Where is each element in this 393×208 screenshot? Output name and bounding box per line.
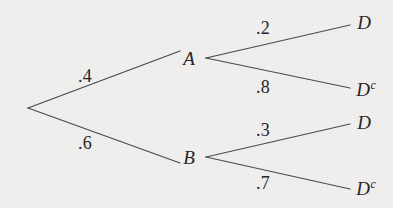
edge-probability-a-dc: .8 [256, 78, 270, 96]
leaf-superscript-c: c [371, 177, 376, 190]
leaf-label-b-d: D [357, 113, 371, 132]
branch-line-A-to-D [206, 25, 350, 58]
leaf-label-a-d: D [357, 13, 371, 32]
probability-tree-figure: A B D Dc D Dc .4 .6 .2 .8 .3 .7 [0, 0, 393, 208]
leaf-base-letter: D [356, 79, 370, 100]
tree-branches-svg [0, 0, 393, 208]
node-label-a: A [183, 49, 195, 68]
leaf-base-letter: D [357, 12, 371, 33]
leaf-label-b-dc: Dc [356, 179, 375, 198]
edge-probability-root-a: .4 [78, 67, 92, 85]
edge-probability-b-d: .3 [256, 121, 270, 139]
branch-line-B-to-D [206, 124, 350, 157]
edge-probability-a-d: .2 [256, 19, 270, 37]
leaf-base-letter: D [357, 112, 371, 133]
node-label-b: B [183, 148, 195, 167]
branch-line-root-A [28, 51, 180, 108]
leaf-base-letter: D [356, 178, 370, 199]
leaf-superscript-c: c [371, 78, 376, 91]
branch-line-B-to-Dc [206, 157, 350, 189]
edge-probability-b-dc: .7 [256, 174, 270, 192]
leaf-label-a-dc: Dc [356, 80, 375, 99]
branch-line-A-to-Dc [206, 58, 350, 88]
branch-line-root-B [28, 108, 180, 163]
edge-probability-root-b: .6 [78, 134, 92, 152]
